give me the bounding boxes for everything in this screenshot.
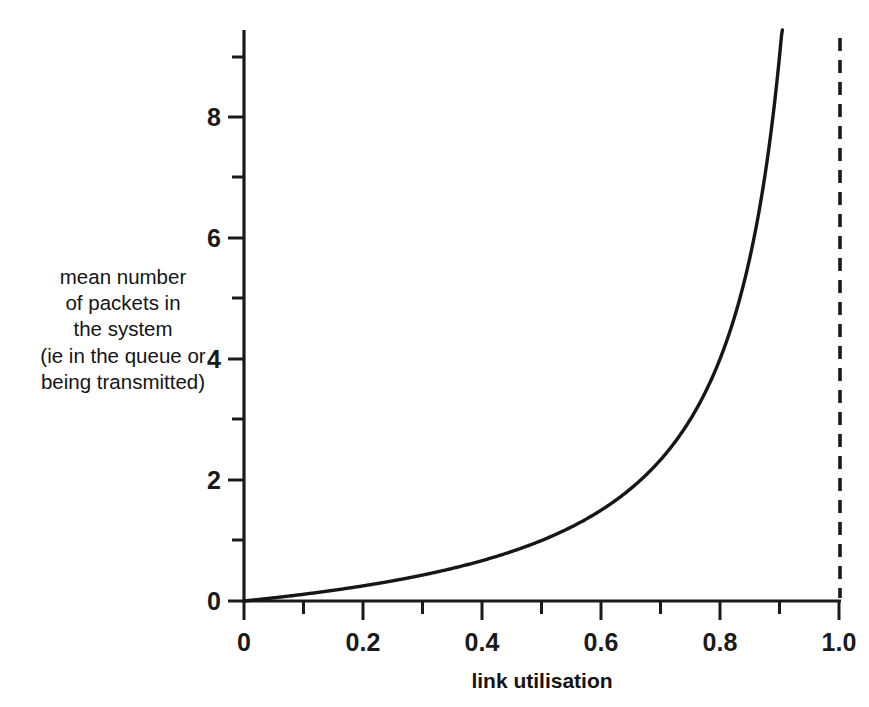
x-axis-minor-ticks xyxy=(304,601,780,614)
y-tick-label-8: 8 xyxy=(207,105,221,130)
x-tick-label-0-6: 0.6 xyxy=(584,630,619,655)
y-axis-title-line-3: the system xyxy=(14,316,232,342)
y-tick-label-6: 6 xyxy=(207,226,221,251)
x-axis-title: link utilisation xyxy=(244,669,840,693)
x-tick-label-0-8: 0.8 xyxy=(703,630,738,655)
queueing-curve xyxy=(244,30,782,601)
y-tick-label-2: 2 xyxy=(207,468,221,493)
x-tick-label-0-2: 0.2 xyxy=(346,630,381,655)
x-tick-label-0: 0 xyxy=(237,630,251,655)
x-tick-label-0-4: 0.4 xyxy=(465,630,500,655)
y-axis-minor-ticks xyxy=(232,57,244,540)
y-axis-title-line-1: mean number xyxy=(14,264,232,290)
y-axis-title-line-2: of packets in xyxy=(14,290,232,316)
y-axis-title-line-4: (ie in the queue or xyxy=(14,343,232,369)
y-axis-title-line-5: being transmitted) xyxy=(14,369,232,395)
chart-figure: 0 2 4 6 8 0 0.2 0.4 0.6 0.8 1.0 mean num… xyxy=(0,0,869,707)
y-tick-label-0: 0 xyxy=(207,589,221,614)
y-axis-title: mean number of packets in the system (ie… xyxy=(14,264,232,395)
x-tick-label-1-0: 1.0 xyxy=(822,630,857,655)
